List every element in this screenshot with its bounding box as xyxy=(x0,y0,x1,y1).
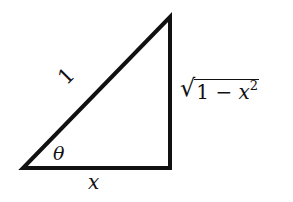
angle-theta-label: θ xyxy=(53,144,64,163)
sqrt-symbol: √ xyxy=(180,76,195,100)
radicand-constant: 1 − xyxy=(196,80,238,104)
base-x-label: x xyxy=(88,172,99,192)
radicand-variable: x xyxy=(239,80,250,104)
radicand: 1 − x2 xyxy=(194,79,259,102)
right-triangle xyxy=(23,17,170,168)
exponent: 2 xyxy=(250,78,258,93)
vertical-side-label: √ 1 − x2 xyxy=(180,79,259,103)
